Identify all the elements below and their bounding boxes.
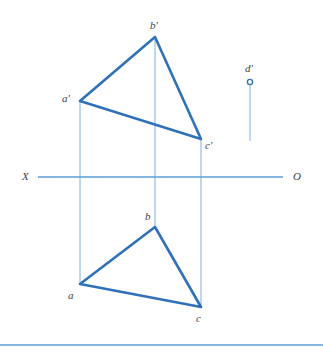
vertex-label-c-prime: c' (205, 140, 212, 151)
vertex-label-d-prime: d' (245, 63, 253, 74)
horizontal-triangle (80, 227, 201, 307)
ground-line-label-o: O (293, 171, 301, 182)
vertex-label-b-prime: b' (150, 20, 158, 31)
vertex-label-a-prime: a' (62, 93, 70, 104)
vertex-label-a: a (68, 290, 74, 301)
vertex-label-c: c (196, 313, 201, 324)
descriptive-geometry-figure: — —— — —— ——— —— X O a' b' c' a b c d' (0, 0, 323, 353)
point-marker-d-prime (247, 79, 252, 84)
vertex-label-b: b (145, 211, 151, 222)
ground-line-label-x: X (22, 171, 29, 182)
frontal-triangle (80, 37, 201, 139)
projection-drawing-canvas (0, 0, 323, 353)
